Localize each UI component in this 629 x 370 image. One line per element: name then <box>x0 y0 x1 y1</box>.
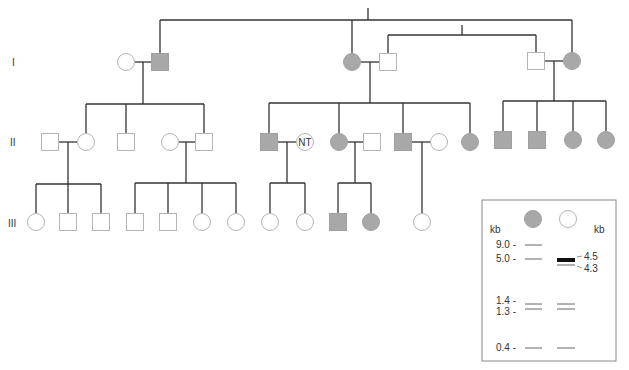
unaffected-female-circle-icon <box>560 211 577 228</box>
individual-II-11 <box>431 134 448 151</box>
unaffected-female-circle-icon <box>262 214 279 231</box>
unaffected-male-square-icon <box>93 214 110 231</box>
individual-II-5 <box>196 134 213 151</box>
individual-II-12 <box>462 134 479 151</box>
affected-female-circle-icon <box>344 54 361 71</box>
unaffected-female-circle-icon <box>194 214 211 231</box>
individual-I-3 <box>344 54 361 71</box>
individual-III-12 <box>414 214 431 231</box>
individual-III-5 <box>160 214 177 231</box>
generation-labels: IIIIII <box>8 57 16 229</box>
unaffected-female-circle-icon <box>118 54 135 71</box>
affected-female-circle-icon <box>331 134 348 151</box>
generation-label: II <box>10 137 16 148</box>
individual-III-3 <box>93 214 110 231</box>
individual-I-2 <box>152 54 169 71</box>
individual-II-8 <box>331 134 348 151</box>
unaffected-female-circle-icon <box>228 214 245 231</box>
unaffected-female-circle-icon <box>28 214 45 231</box>
pedigree-connecting-lines <box>36 8 606 213</box>
unaffected-male-square-icon <box>118 134 135 151</box>
individual-III-4 <box>127 214 144 231</box>
individual-II-4 <box>162 134 179 151</box>
unaffected-male-square-icon <box>364 134 381 151</box>
affected-female-circle-icon <box>565 132 582 149</box>
unaffected-male-square-icon <box>127 214 144 231</box>
size-marker-label: 9.0 - <box>496 239 516 250</box>
unaffected-male-square-icon <box>196 134 213 151</box>
right-unit-label: kb <box>594 224 605 235</box>
lane-header-2 <box>560 211 577 228</box>
affected-female-circle-icon <box>525 211 542 228</box>
affected-female-circle-icon <box>564 53 581 70</box>
individual-III-10 <box>330 214 347 231</box>
individual-II-1 <box>42 134 59 151</box>
individual-III-9 <box>297 214 314 231</box>
unaffected-female-circle-icon <box>162 134 179 151</box>
individual-II-14 <box>529 132 546 149</box>
band-size-label: 4.5 <box>584 251 598 262</box>
affected-male-square-icon <box>261 134 278 151</box>
affected-female-circle-icon <box>598 132 615 149</box>
individual-II-15 <box>565 132 582 149</box>
individual-III-2 <box>60 214 77 231</box>
individual-II-6 <box>261 134 278 151</box>
unaffected-male-square-icon <box>60 214 77 231</box>
unaffected-female-circle-icon <box>414 214 431 231</box>
individual-II-10 <box>395 134 412 151</box>
individual-II-7: NT <box>297 134 314 151</box>
individual-I-5 <box>528 53 545 70</box>
generation-label: I <box>12 57 15 68</box>
unaffected-male-square-icon <box>42 134 59 151</box>
individual-II-3 <box>118 134 135 151</box>
southern-blot-panel: kbkb9.0 -5.0 -1.4 -1.3 -0.4 -4.54.3 <box>482 200 616 361</box>
size-marker-label: 5.0 - <box>496 253 516 264</box>
individual-I-6 <box>564 53 581 70</box>
individual-III-7 <box>228 214 245 231</box>
individual-II-13 <box>495 132 512 149</box>
lane-header-1 <box>525 211 542 228</box>
affected-male-square-icon <box>495 132 512 149</box>
individual-II-16 <box>598 132 615 149</box>
individual-II-2 <box>78 134 95 151</box>
generation-label: III <box>8 218 16 229</box>
individual-III-6 <box>194 214 211 231</box>
affected-female-circle-icon <box>462 134 479 151</box>
individual-III-8 <box>262 214 279 231</box>
individual-I-1 <box>118 54 135 71</box>
pedigree-chart: NT IIIIII kbkb9.0 -5.0 -1.4 -1.3 -0.4 -4… <box>0 0 629 370</box>
affected-male-square-icon <box>395 134 412 151</box>
size-marker-label: 0.4 - <box>496 342 516 353</box>
left-unit-label: kb <box>490 224 501 235</box>
individual-III-11 <box>363 214 380 231</box>
size-marker-label: 1.3 - <box>496 306 516 317</box>
pedigree-figure: NT IIIIII kbkb9.0 -5.0 -1.4 -1.3 -0.4 -4… <box>0 0 629 370</box>
unaffected-female-circle-icon <box>297 214 314 231</box>
individual-annotation: NT <box>298 137 311 148</box>
affected-male-square-icon <box>152 54 169 71</box>
individual-III-1 <box>28 214 45 231</box>
affected-female-circle-icon <box>363 214 380 231</box>
unaffected-male-square-icon <box>160 214 177 231</box>
unaffected-female-circle-icon <box>431 134 448 151</box>
affected-male-square-icon <box>330 214 347 231</box>
unaffected-female-circle-icon <box>78 134 95 151</box>
individual-I-4 <box>380 54 397 71</box>
unaffected-male-square-icon <box>380 54 397 71</box>
size-marker-label: 1.4 - <box>496 295 516 306</box>
band-size-label: 4.3 <box>584 263 598 274</box>
individual-II-9 <box>364 134 381 151</box>
unaffected-male-square-icon <box>528 53 545 70</box>
affected-male-square-icon <box>529 132 546 149</box>
